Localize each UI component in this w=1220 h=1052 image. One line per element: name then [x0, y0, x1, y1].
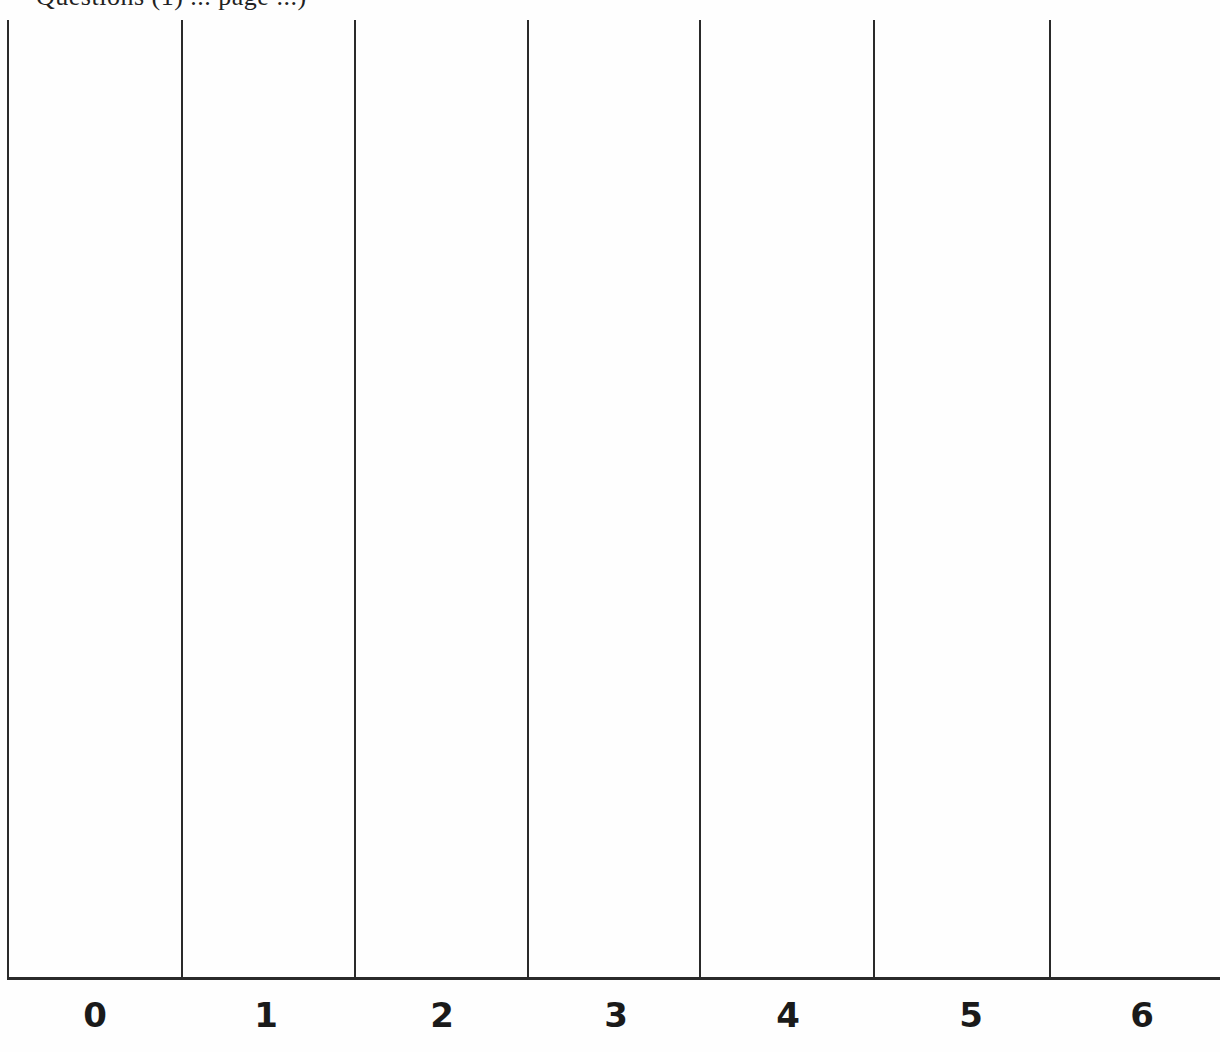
grid-line-6 [1049, 20, 1051, 980]
column-label-1: 1 [236, 995, 296, 1035]
column-label-6: 6 [1112, 995, 1172, 1035]
column-label-3: 3 [586, 995, 646, 1035]
column-label-0: 0 [65, 995, 125, 1035]
grid-line-4 [699, 20, 701, 980]
blank-bar-grid: 0 1 2 3 4 5 6 [0, 0, 1220, 1052]
column-label-2: 2 [412, 995, 472, 1035]
worksheet-page: Questions (1) ... page ...) 0 1 2 3 4 5 … [0, 0, 1220, 1052]
grid-line-2 [354, 20, 356, 980]
grid-baseline [7, 977, 1220, 980]
grid-line-3 [527, 20, 529, 980]
grid-line-1 [181, 20, 183, 980]
grid-line-5 [873, 20, 875, 980]
column-label-4: 4 [758, 995, 818, 1035]
grid-line-0 [7, 20, 9, 980]
column-label-5: 5 [941, 995, 1001, 1035]
